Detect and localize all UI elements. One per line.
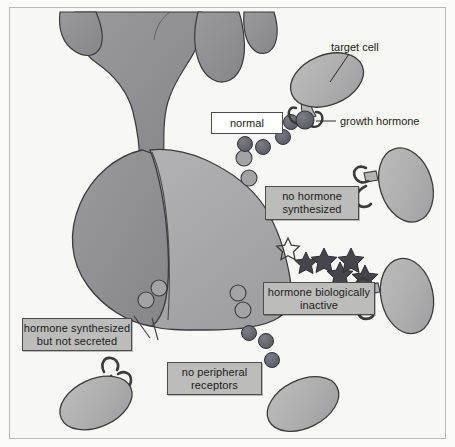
diagram-figure: target cell growth hormone normal no hor… <box>0 0 455 447</box>
target-cell-no-receptors <box>258 366 347 442</box>
label-growth-hormone: growth hormone <box>340 115 420 127</box>
target-cell-not-secreted <box>52 358 141 440</box>
callout-no-hormone-synthesized: no hormone synthesized <box>265 186 359 220</box>
callout-normal: normal <box>211 112 283 134</box>
callout-hormone-biologically-inactive: hormone biologically inactive <box>263 282 375 315</box>
label-target-cell: target cell <box>331 41 379 53</box>
cell-body-normal <box>282 43 371 118</box>
target-cell-no-hormone <box>354 141 442 229</box>
callout-no-peripheral-receptors: no peripheral receptors <box>167 362 262 395</box>
callout-hormone-synthesized-but-not-secreted: hormone synthesized but not secreted <box>22 318 132 351</box>
bound-growth-hormone <box>296 111 314 129</box>
pituitary-posterior-lobe <box>72 150 170 327</box>
